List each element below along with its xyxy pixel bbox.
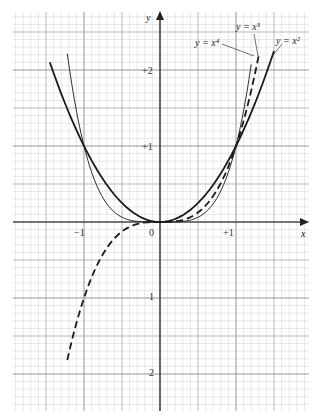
tick-y-minus1: 1 <box>149 291 154 302</box>
tick-y-plus2: +2 <box>142 65 153 76</box>
leader-x3 <box>254 34 258 56</box>
annotation-x4: y = x⁴ <box>194 37 220 48</box>
tick-x-0: 0 <box>149 227 154 238</box>
leader-x4 <box>222 44 254 56</box>
tick-y-plus1: +1 <box>142 141 153 152</box>
graph-paper-chart: y x y = x³ y = x⁴ y = x² −1 0 +1 +2 +1 1… <box>0 0 317 420</box>
annotation-x2: y = x² <box>275 35 301 46</box>
curve-x3 <box>67 55 259 360</box>
tick-y-minus2: 2 <box>149 367 154 378</box>
minor-grid <box>13 12 309 411</box>
tick-x-plus1: +1 <box>223 227 234 238</box>
y-axis-label: y <box>145 12 151 23</box>
curve-x4 <box>67 54 251 222</box>
x-axis-label: x <box>300 228 306 239</box>
tick-x-minus1: −1 <box>74 227 85 238</box>
curve-x2 <box>50 51 274 222</box>
y-axis-arrow-icon <box>156 11 164 20</box>
annotation-x3: y = x³ <box>235 21 261 32</box>
